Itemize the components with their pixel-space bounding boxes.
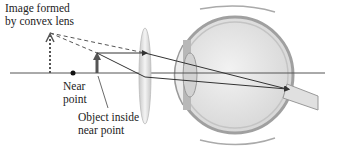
near-point-dot <box>71 71 76 76</box>
eye-cross-section <box>175 6 319 144</box>
image-label-line2: by convex lens <box>5 15 74 28</box>
object-arrow <box>93 52 101 73</box>
virtual-ray-2 <box>50 33 97 53</box>
object-label-line1: Object inside <box>78 111 139 124</box>
near-point-label: Near point <box>63 80 87 106</box>
convex-lens <box>139 28 151 124</box>
image-label-line1: Image formed <box>5 2 74 15</box>
object-label-line2: near point <box>78 124 139 137</box>
object-label: Object inside near point <box>78 111 139 137</box>
object-label-pointer <box>98 76 108 108</box>
virtual-ray-1 <box>50 33 145 53</box>
virtual-image-arrow <box>46 34 54 73</box>
near-point-line1: Near <box>63 80 87 93</box>
near-point-line2: point <box>63 93 87 106</box>
image-label: Image formed by convex lens <box>5 2 74 28</box>
